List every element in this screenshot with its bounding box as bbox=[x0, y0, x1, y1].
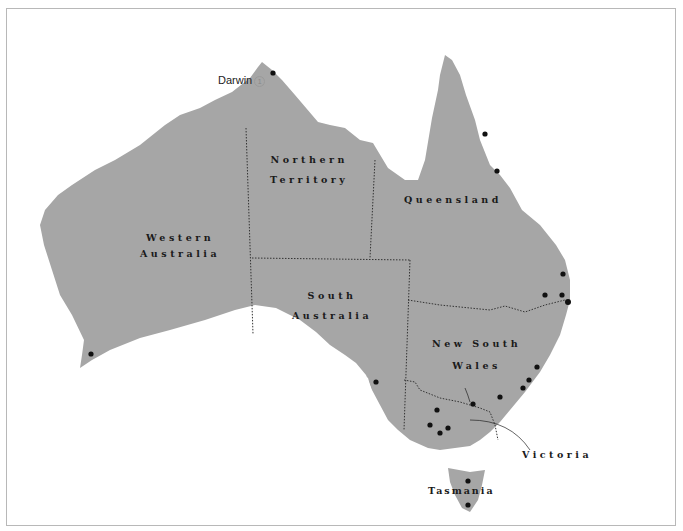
state-label: Queensland bbox=[404, 192, 502, 208]
state-label: Australia bbox=[140, 246, 220, 262]
city-name: Darwin bbox=[218, 74, 252, 86]
state-label: Territory bbox=[270, 172, 348, 188]
state-label: Australia bbox=[292, 308, 372, 324]
state-label: Western bbox=[140, 230, 220, 246]
state-label: Wales bbox=[432, 358, 521, 374]
state-south-australia: South Australia bbox=[292, 288, 372, 324]
mainland bbox=[40, 55, 570, 450]
state-northern-territory: Northern Territory bbox=[270, 152, 348, 188]
state-new-south-wales: New South Wales bbox=[432, 336, 521, 374]
state-label: South bbox=[292, 288, 372, 304]
state-victoria: Victoria bbox=[522, 447, 592, 463]
state-western-australia: Western Australia bbox=[140, 230, 220, 262]
state-label: Northern bbox=[270, 152, 348, 168]
state-label: New South bbox=[432, 336, 521, 352]
state-label: Victoria bbox=[522, 447, 592, 463]
city-darwin: Darwin1 bbox=[218, 74, 265, 87]
state-tasmania: Tasmania bbox=[428, 483, 495, 499]
ranking-badge: 1 bbox=[254, 76, 265, 87]
state-label: Tasmania bbox=[428, 483, 495, 499]
state-queensland: Queensland bbox=[404, 192, 502, 208]
